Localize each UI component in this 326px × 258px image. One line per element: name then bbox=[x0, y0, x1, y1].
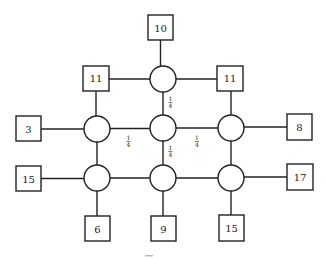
box-label-bottom-left: 6 bbox=[94, 224, 100, 235]
fraction-denominator: 4 bbox=[195, 141, 199, 148]
circle-node-bot-left bbox=[84, 165, 110, 191]
box-node-right-bot: 17 bbox=[287, 164, 313, 190]
box-node-top: 10 bbox=[148, 15, 173, 40]
grid-network-diagram: 10 11 11 3 8 15 17 6 bbox=[0, 0, 326, 258]
box-label-top: 10 bbox=[154, 23, 167, 34]
box-node-bottom-right: 15 bbox=[219, 215, 244, 241]
fraction-numerator: 1 bbox=[195, 134, 199, 141]
circle-node-mid-right bbox=[218, 115, 244, 141]
box-node-bottom-left: 6 bbox=[85, 216, 110, 241]
fraction-denominator: 4 bbox=[169, 102, 173, 109]
edge-weight-center-right: 1 4 bbox=[195, 134, 199, 148]
fraction-numerator: 1 bbox=[169, 144, 173, 151]
box-node-upper-right: 11 bbox=[217, 66, 243, 91]
box-node-left-mid: 3 bbox=[16, 116, 41, 141]
circle-node-mid-left bbox=[84, 116, 110, 142]
box-node-bottom-center: 9 bbox=[151, 216, 176, 241]
box-label-bottom-center: 9 bbox=[160, 224, 166, 235]
fraction-numerator: 1 bbox=[169, 95, 173, 102]
box-label-left-mid: 3 bbox=[25, 124, 31, 135]
box-node-upper-left: 11 bbox=[83, 66, 109, 91]
box-label-right-mid: 8 bbox=[296, 122, 302, 133]
circle-node-top bbox=[150, 66, 176, 92]
fraction-denominator: 4 bbox=[127, 141, 131, 148]
clipped-caption bbox=[145, 255, 153, 257]
box-label-bottom-right: 15 bbox=[225, 223, 238, 234]
box-node-left-bot: 15 bbox=[16, 166, 41, 191]
edge-weight-center-bottom: 1 4 bbox=[169, 144, 173, 158]
circle-node-bot-center bbox=[150, 165, 176, 191]
box-label-right-bot: 17 bbox=[294, 172, 307, 183]
fraction-numerator: 1 bbox=[127, 134, 131, 141]
box-label-upper-right: 11 bbox=[224, 73, 237, 84]
circle-node-mid-center bbox=[150, 115, 176, 141]
edge-weight-top-center: 1 4 bbox=[169, 95, 173, 109]
circle-node-bot-right bbox=[218, 165, 244, 191]
box-node-right-mid: 8 bbox=[287, 114, 312, 140]
box-label-left-bot: 15 bbox=[22, 174, 35, 185]
fraction-denominator: 4 bbox=[169, 151, 173, 158]
edge-weight-left-center: 1 4 bbox=[127, 134, 131, 148]
box-label-upper-left: 11 bbox=[90, 73, 103, 84]
